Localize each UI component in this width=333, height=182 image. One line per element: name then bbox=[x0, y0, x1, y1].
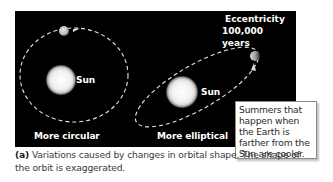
orbit-direction-arrow-icon bbox=[251, 63, 256, 71]
sun-icon bbox=[165, 75, 199, 109]
earth-icon bbox=[250, 51, 260, 61]
sun-icon bbox=[45, 64, 77, 96]
eccentricity-period: 100,000 years bbox=[222, 25, 292, 49]
caption-tag: (a) bbox=[15, 149, 29, 160]
earth-icon bbox=[59, 26, 69, 36]
figure-caption: (a) Variations caused by changes in orbi… bbox=[15, 149, 315, 174]
circular-orbit-label: More circular bbox=[34, 131, 100, 142]
sun-label: Sun bbox=[76, 75, 95, 86]
caption-text: Variations caused by changes in orbital … bbox=[15, 149, 300, 173]
elliptical-orbit-label: More elliptical bbox=[157, 131, 228, 142]
circular-orbit bbox=[20, 26, 128, 122]
orbit-direction-arrow-icon bbox=[73, 29, 80, 33]
eccentricity-title: Eccentricity bbox=[222, 13, 292, 25]
eccentricity-heading: Eccentricity 100,000 years bbox=[222, 13, 292, 49]
sun-label: Sun bbox=[201, 87, 220, 98]
